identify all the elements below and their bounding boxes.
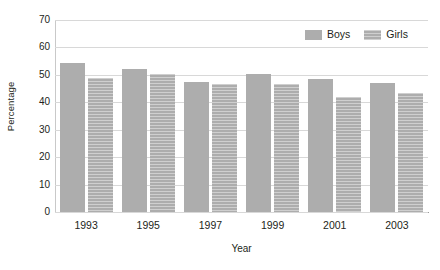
x-axis-title: Year: [55, 243, 428, 254]
legend-label-girls: Girls: [386, 29, 408, 40]
y-axis-tick: 0: [26, 207, 50, 217]
y-axis-tick: 60: [26, 42, 50, 52]
y-axis-tick-label: 30: [26, 125, 50, 135]
bar-girls-1995: [150, 74, 175, 213]
y-axis-tick-label: 50: [26, 70, 50, 80]
y-axis-title-label: Percentage: [6, 81, 17, 131]
bar-girls-2001: [336, 97, 361, 212]
legend-item-girls[interactable]: Girls: [364, 29, 408, 40]
y-axis-title: Percentage: [0, 0, 22, 212]
bar-boys-2003: [370, 83, 395, 212]
y-axis-tick-label: 20: [26, 152, 50, 162]
y-axis-tick-label: 70: [26, 15, 50, 25]
y-axis-tick-label: 40: [26, 97, 50, 107]
y-axis-tick: 70: [26, 15, 50, 25]
gridline: [55, 212, 428, 213]
y-axis-tick-label: 10: [26, 180, 50, 190]
y-axis-tick-label: 0: [26, 207, 50, 217]
x-axis-tick-label: 2003: [362, 219, 432, 231]
bar-chart: Percentage 010203040506070 1993199519971…: [0, 0, 440, 270]
bar-boys-1999: [246, 74, 271, 213]
bar-boys-1997: [184, 82, 209, 212]
y-axis-tick: 30: [26, 125, 50, 135]
x-axis-tick-label: 1999: [238, 219, 308, 231]
chart-legend: Boys Girls: [305, 29, 408, 40]
y-axis-tick: 10: [26, 180, 50, 190]
bar-boys-1995: [122, 69, 147, 212]
x-axis-tick-label: 1997: [175, 219, 245, 231]
legend-label-boys: Boys: [327, 29, 350, 40]
bar-girls-1993: [88, 78, 113, 212]
x-axis-tick-label: 1993: [51, 219, 121, 231]
y-axis-tick: 40: [26, 97, 50, 107]
x-axis-tick-label: 2001: [300, 219, 370, 231]
bar-girls-1997: [212, 84, 237, 212]
bar-boys-2001: [308, 79, 333, 212]
y-axis-tick: 50: [26, 70, 50, 80]
plot-area: [55, 20, 428, 212]
x-axis-tick-label: 1995: [113, 219, 183, 231]
y-axis-tick-label: 60: [26, 42, 50, 52]
bar-girls-2003: [398, 93, 423, 212]
bar-girls-1999: [274, 84, 299, 212]
legend-swatch-girls-icon: [364, 30, 381, 40]
legend-item-boys[interactable]: Boys: [305, 29, 350, 40]
y-axis-tick: 20: [26, 152, 50, 162]
legend-swatch-boys-icon: [305, 30, 322, 40]
bar-boys-1993: [60, 63, 85, 212]
